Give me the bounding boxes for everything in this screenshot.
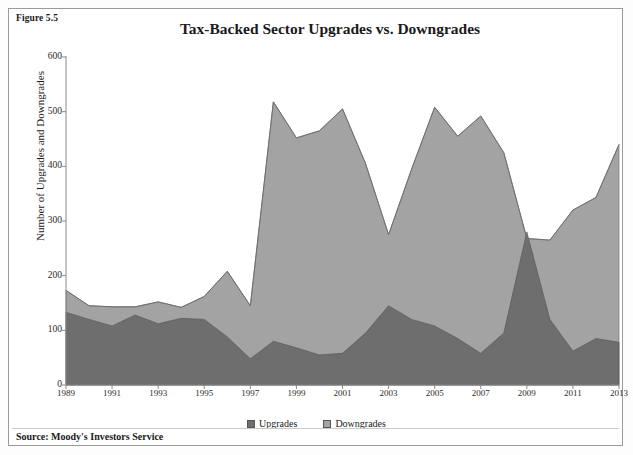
y-tick-label: 600	[22, 51, 62, 61]
y-tick-label: 400	[22, 160, 62, 170]
source-divider	[12, 428, 619, 429]
area-chart-svg	[0, 0, 633, 455]
x-tick-label: 2001	[320, 388, 366, 398]
legend-swatch-icon	[247, 420, 255, 428]
x-tick-label: 2003	[366, 388, 412, 398]
y-tick-label: 200	[22, 270, 62, 280]
series-layer	[66, 102, 619, 385]
x-tick-label: 2009	[504, 388, 550, 398]
figure-page: Figure 5.5 Tax-Backed Sector Upgrades vs…	[0, 0, 633, 455]
y-tick-label: 100	[22, 324, 62, 334]
x-tick-label: 1993	[135, 388, 181, 398]
legend-swatch-icon	[323, 420, 331, 428]
x-tick-label: 1997	[227, 388, 273, 398]
y-tick-label: 500	[22, 106, 62, 116]
x-tick-label: 1999	[273, 388, 319, 398]
x-tick-label: 2007	[458, 388, 504, 398]
x-tick-label: 1989	[43, 388, 89, 398]
source-note: Source: Moody's Investors Service	[16, 431, 163, 442]
x-tick-label: 2013	[596, 388, 633, 398]
plot-area: Number of Upgrades and Downgrades 010020…	[0, 0, 633, 455]
x-tick-label: 2005	[412, 388, 458, 398]
x-tick-label: 1995	[181, 388, 227, 398]
x-tick-label: 1991	[89, 388, 135, 398]
y-axis-ticks: 0100200300400500600	[22, 0, 62, 455]
x-tick-label: 2011	[550, 388, 596, 398]
y-tick-label: 300	[22, 215, 62, 225]
